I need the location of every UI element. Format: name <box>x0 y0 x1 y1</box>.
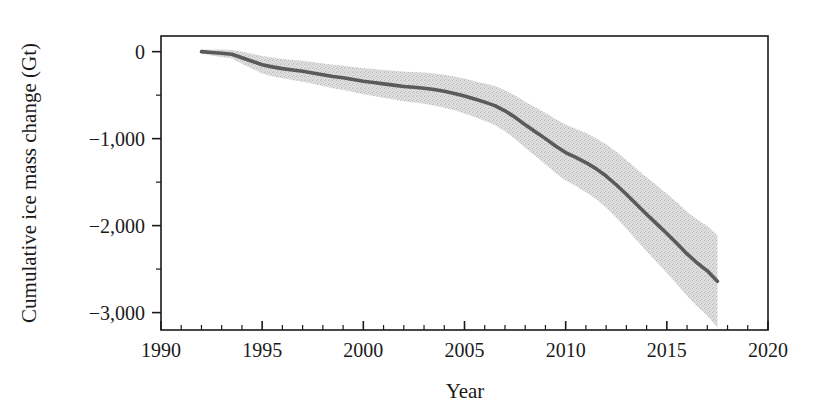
x-tick-label: 2020 <box>748 339 788 361</box>
x-tick-label: 1990 <box>141 339 181 361</box>
chart-figure: 1990199520002005201020152020 0−1,000−2,0… <box>0 0 825 411</box>
chart-background <box>0 0 825 411</box>
x-tick-label: 2015 <box>647 339 687 361</box>
cumulative-ice-mass-change-chart: 1990199520002005201020152020 0−1,000−2,0… <box>0 0 825 411</box>
y-tick-label: −2,000 <box>89 215 145 237</box>
x-tick-label: 2010 <box>546 339 586 361</box>
y-tick-label: 0 <box>135 41 145 63</box>
x-tick-label: 2005 <box>445 339 485 361</box>
x-tick-label: 2000 <box>343 339 383 361</box>
x-tick-label: 1995 <box>242 339 282 361</box>
y-tick-label: −3,000 <box>89 302 145 324</box>
y-tick-label: −1,000 <box>89 128 145 150</box>
y-axis-label: Cumulative ice mass change (Gt) <box>17 43 41 323</box>
x-axis-label: Year <box>446 379 485 403</box>
